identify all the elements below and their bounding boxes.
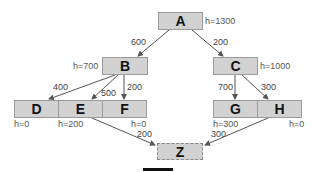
node-z: Z [157,143,203,160]
node-d: D [14,100,59,118]
node-f-heuristic: h=0 [131,119,146,129]
edge-weight-b-d: 400 [53,82,68,92]
node-b: B [102,57,148,75]
edge-weight-a-b: 600 [131,37,146,47]
node-a-heuristic: h=1300 [205,16,235,26]
edge-weight-b-e: 500 [101,88,116,98]
node-g-heuristic: h=300 [213,119,238,129]
underline-bar [143,168,173,171]
node-e-label: E [76,101,85,117]
node-f-label: F [120,101,129,117]
edge-weight-e-z: 200 [137,129,152,139]
edge-weight-h-z: 300 [211,129,226,139]
node-g-label: G [230,101,241,117]
edge-weight-c-h: 300 [261,82,276,92]
node-e-heuristic: h=200 [58,119,83,129]
node-c: C [213,57,258,75]
edge-weight-c-g: 700 [218,82,233,92]
node-h-label: H [274,101,284,117]
node-g: G [213,100,258,118]
node-h: H [257,100,302,118]
node-f: F [102,100,147,118]
node-h-heuristic: h=0 [289,119,304,129]
node-e: E [58,100,103,118]
edge-weight-a-c: 200 [213,37,228,47]
node-d-label: D [31,101,41,117]
node-a: A [158,12,203,30]
node-z-label: Z [176,144,185,160]
node-a-label: A [175,13,185,29]
node-c-label: C [230,58,240,74]
edge-weight-b-f: 200 [127,82,142,92]
node-b-label: B [120,58,130,74]
node-b-heuristic: h=700 [73,61,98,71]
node-d-heuristic: h=0 [14,119,29,129]
node-c-heuristic: h=1000 [260,61,290,71]
